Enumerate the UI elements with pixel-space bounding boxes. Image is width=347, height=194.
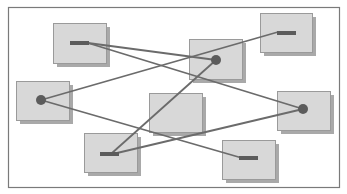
nodes-layer: [17, 14, 335, 184]
bar-port-icon: [239, 156, 258, 160]
dot-port-icon: [298, 104, 308, 114]
node-box-n6: [150, 94, 207, 137]
bar-port-icon: [100, 152, 119, 156]
dot-port-icon: [36, 95, 46, 105]
bar-port-icon: [277, 31, 296, 35]
dot-port-icon: [211, 55, 221, 65]
bar-port-icon: [70, 41, 89, 45]
node-box-n8: [223, 141, 280, 184]
edge-n2-n8: [41, 100, 242, 158]
network-diagram: [0, 0, 347, 194]
